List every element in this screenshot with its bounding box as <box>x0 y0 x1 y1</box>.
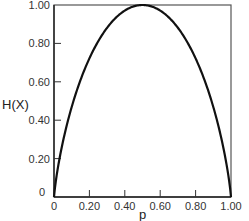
plot-frame <box>54 5 231 197</box>
y-tick-label: 1.00 <box>29 0 50 11</box>
x-axis-label: p <box>139 207 146 221</box>
entropy-curve <box>54 5 231 197</box>
x-tick-label: 0 <box>51 200 57 212</box>
entropy-chart: 00.200.400.600.801.0000.200.400.600.801.… <box>0 0 249 221</box>
y-tick-label: 0.60 <box>29 76 50 88</box>
y-axis-label: H(X) <box>2 97 29 112</box>
x-tick-label: 0.40 <box>114 200 135 212</box>
y-tick-label: 0.80 <box>29 37 50 49</box>
y-tick-label: 0.20 <box>29 153 50 165</box>
x-tick-label: 1.00 <box>220 200 241 212</box>
y-tick-label: 0 <box>39 186 45 198</box>
x-tick-label: 0.80 <box>185 200 206 212</box>
x-tick-label: 0.20 <box>79 200 100 212</box>
x-tick-label: 0.60 <box>149 200 170 212</box>
y-tick-label: 0.40 <box>29 114 50 126</box>
